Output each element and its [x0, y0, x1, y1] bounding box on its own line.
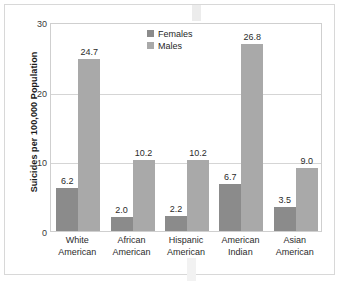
y-axis-tick: 30: [37, 19, 47, 29]
x-axis-label-line: Hispanic: [159, 235, 213, 247]
x-axis-label-line: American: [213, 235, 267, 247]
x-axis-label-line: White: [50, 235, 104, 247]
bar-rect: [219, 184, 241, 231]
bar-females[interactable]: 6.2: [56, 188, 78, 231]
x-axis-label-line: American: [268, 247, 322, 259]
x-axis-label-line: Indian: [213, 247, 267, 259]
bar-rect: [296, 168, 318, 231]
x-axis-label-line: American: [104, 247, 158, 259]
chart-legend: FemalesMales: [147, 28, 193, 52]
bar-males[interactable]: 10.2: [187, 160, 209, 231]
bar-rect: [187, 160, 209, 231]
bar-value-label: 2.0: [115, 205, 128, 215]
page-artifact-bottom: [187, 258, 196, 281]
plot-area: 0102030 FemalesMales 6.224.72.010.22.210…: [50, 23, 322, 232]
bar-value-label: 10.2: [135, 148, 153, 158]
y-axis-tick: 20: [37, 89, 47, 99]
bar-rect: [78, 59, 100, 231]
x-axis-labels: WhiteAmericanAfricanAmericanHispanicAmer…: [50, 235, 322, 269]
bar-group: 2.210.2: [160, 22, 214, 231]
page-artifact: [192, 5, 201, 21]
bar-females[interactable]: 6.7: [219, 184, 241, 231]
x-axis-label: AfricanAmerican: [104, 235, 158, 258]
bar-males[interactable]: 26.8: [241, 44, 263, 231]
x-axis-label: AsianAmerican: [268, 235, 322, 258]
legend-item: Females: [147, 28, 193, 39]
bar-males[interactable]: 24.7: [78, 59, 100, 231]
bar-rect: [274, 207, 296, 231]
x-axis-label: HispanicAmerican: [159, 235, 213, 258]
x-axis-label-line: Asian: [268, 235, 322, 247]
bar-value-label: 10.2: [189, 148, 207, 158]
x-axis-label-line: American: [50, 247, 104, 259]
x-axis-label-line: African: [104, 235, 158, 247]
legend-label: Females: [158, 29, 193, 39]
bar-value-label: 6.7: [224, 172, 237, 182]
bar-rect: [56, 188, 78, 231]
x-axis-label: WhiteAmerican: [50, 235, 104, 258]
bar-value-label: 26.8: [244, 32, 262, 42]
bar-rect: [165, 216, 187, 231]
bar-rect: [241, 44, 263, 231]
bar-value-label: 3.5: [279, 195, 292, 205]
bar-group: 2.010.2: [105, 22, 159, 231]
x-axis-label: AmericanIndian: [213, 235, 267, 258]
bar-group: 6.224.7: [51, 22, 105, 231]
x-axis-label-line: American: [159, 247, 213, 259]
bar-rect: [111, 217, 133, 231]
y-axis-title: Suicides per 100,000 Population: [29, 27, 39, 217]
bar-females[interactable]: 2.2: [165, 216, 187, 231]
y-axis-tick: 0: [42, 228, 47, 238]
y-axis-tick: 10: [37, 158, 47, 168]
legend-label: Males: [158, 41, 182, 51]
bar-females[interactable]: 2.0: [111, 217, 133, 231]
bar-groups: 6.224.72.010.22.210.26.726.83.59.0: [51, 24, 321, 231]
bar-value-label: 24.7: [80, 47, 98, 57]
bar-males[interactable]: 10.2: [133, 160, 155, 231]
bar-group: 3.59.0: [269, 22, 323, 231]
bar-females[interactable]: 3.5: [274, 207, 296, 231]
bar-value-label: 9.0: [301, 156, 314, 166]
chart-figure: Suicides per 100,000 Population 0102030 …: [4, 4, 335, 275]
legend-swatch-icon: [147, 42, 154, 49]
bar-value-label: 2.2: [170, 204, 183, 214]
bar-group: 6.726.8: [214, 22, 268, 231]
bar-value-label: 6.2: [61, 176, 74, 186]
bar-rect: [133, 160, 155, 231]
legend-swatch-icon: [147, 30, 154, 37]
legend-item: Males: [147, 40, 193, 51]
bar-males[interactable]: 9.0: [296, 168, 318, 231]
